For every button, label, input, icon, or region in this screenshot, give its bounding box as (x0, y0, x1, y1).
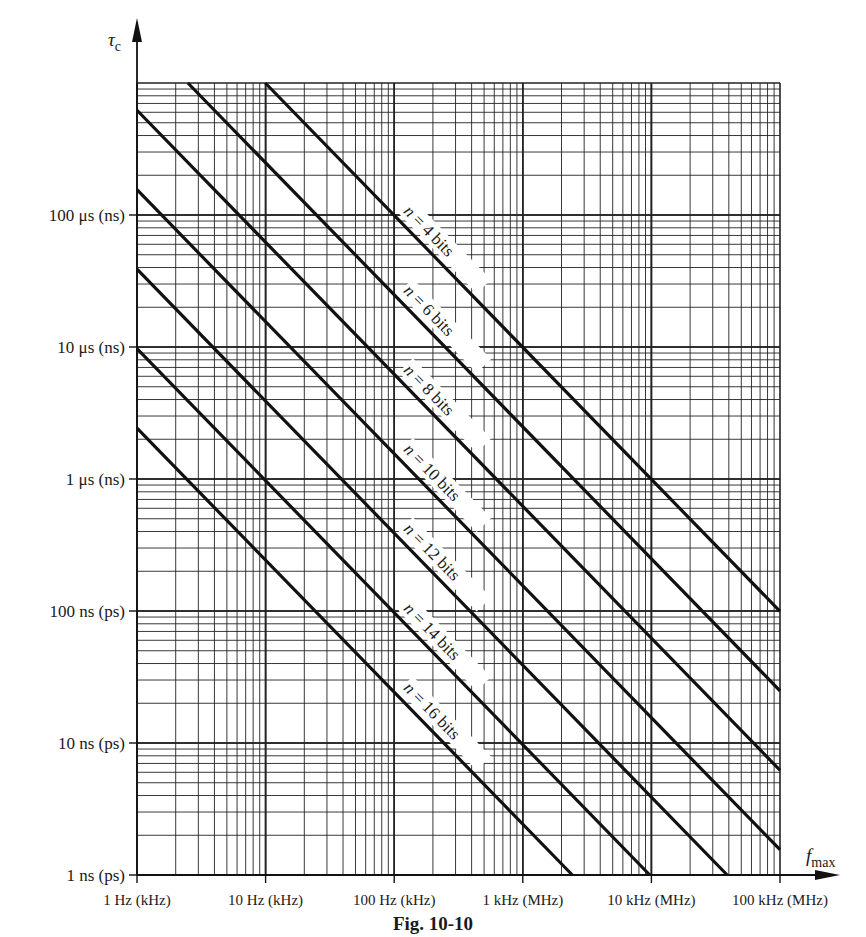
svg-text:n = 12 bits: n = 12 bits (400, 519, 464, 584)
y-tick-label: 10 μs (ns) (57, 338, 125, 357)
y-tick-label: 1 ns (ps) (66, 866, 125, 885)
series-line-n14 (137, 349, 650, 875)
series-line-n16 (137, 428, 572, 875)
chart: 1 ns (ps)10 ns (ps)100 ns (ps)1 μs (ns)1… (0, 0, 866, 937)
figure-caption: Fig. 10-10 (0, 913, 866, 935)
y-tick-label: 10 ns (ps) (58, 734, 125, 753)
y-axis-label: τc (108, 29, 121, 54)
y-tick-label: 100 μs (ns) (49, 206, 125, 225)
svg-text:n = 16 bits: n = 16 bits (400, 678, 464, 743)
plot-area: 1 ns (ps)10 ns (ps)100 ns (ps)1 μs (ns)1… (0, 0, 866, 937)
y-tick-label: 1 μs (ns) (66, 470, 125, 489)
axes (132, 18, 840, 880)
y-tick-label: 100 ns (ps) (49, 602, 125, 621)
x-axis-label: fmax (806, 845, 835, 870)
x-tick-label: 10 kHz (MHz) (607, 892, 695, 909)
y-tick-labels: 1 ns (ps)10 ns (ps)100 ns (ps)1 μs (ns)1… (49, 206, 137, 885)
x-tick-label: 1 kHz (MHz) (482, 892, 563, 909)
x-tick-label: 100 kHz (MHz) (732, 892, 828, 909)
x-tick-labels: 1 Hz (kHz)10 Hz (kHz)100 Hz (kHz)1 kHz (… (103, 875, 828, 909)
x-tick-label: 1 Hz (kHz) (103, 892, 170, 909)
x-tick-label: 100 Hz (kHz) (353, 892, 435, 909)
svg-text:n = 10 bits: n = 10 bits (400, 440, 464, 505)
x-tick-label: 10 Hz (kHz) (228, 892, 303, 909)
